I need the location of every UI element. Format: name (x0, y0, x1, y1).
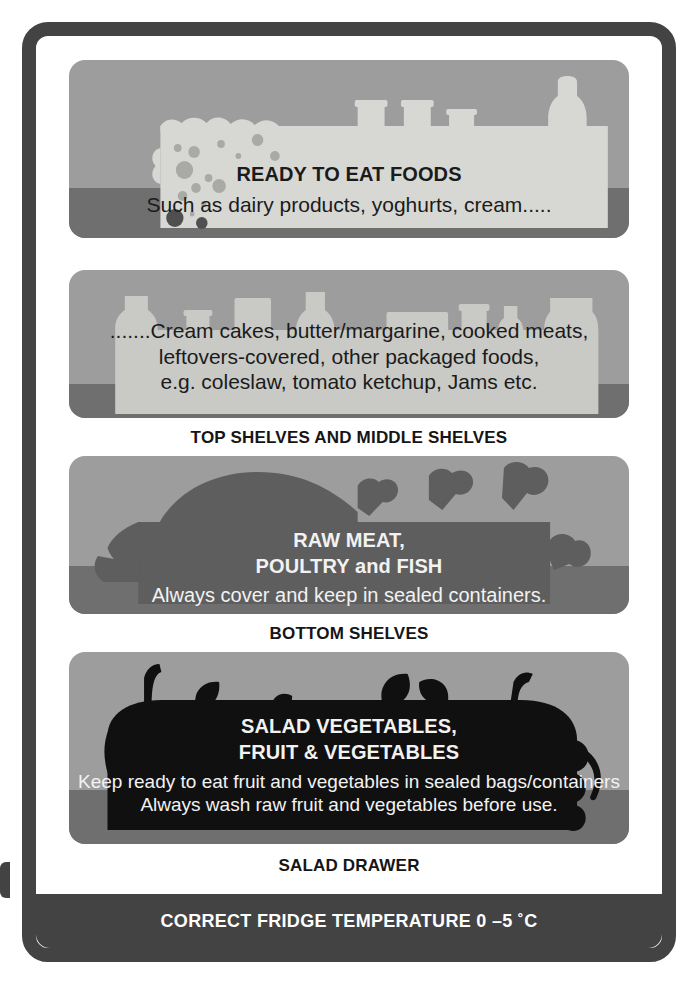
shelf-title-salad-line-1: SALAD VEGETABLES, (69, 714, 629, 738)
shelf-subtitle-ready-to-eat: Such as dairy products, yoghurts, cream.… (69, 192, 629, 218)
shelf-title-raw-meat-line-1: RAW MEAT, (69, 528, 629, 552)
shelf-line-2: leftovers-covered, other packaged foods, (69, 344, 629, 370)
shelf-panel-salad-drawer[interactable]: SALAD VEGETABLES, FRUIT & VEGETABLES Kee… (69, 652, 629, 844)
panel-text-raw-meat: RAW MEAT, POULTRY and FISH Always cover … (69, 528, 629, 607)
shelf-title-ready-to-eat: READY TO EAT FOODS (69, 162, 629, 186)
shelf-line-3: e.g. coleslaw, tomato ketchup, Jams etc. (69, 369, 629, 395)
shelf-subtitle-salad-line-1: Keep ready to eat fruit and vegetables i… (69, 770, 629, 793)
caption-salad-drawer: SALAD DRAWER (50, 856, 648, 876)
panel-text-salad-drawer: SALAD VEGETABLES, FRUIT & VEGETABLES Kee… (69, 714, 629, 816)
shelf-panel-ready-to-eat[interactable]: READY TO EAT FOODS Such as dairy product… (69, 60, 629, 238)
shelf-line-1: .......Cream cakes, butter/margarine, co… (69, 318, 629, 344)
fridge-interior: READY TO EAT FOODS Such as dairy product… (50, 50, 648, 934)
shelf-subtitle-salad-line-2: Always wash raw fruit and vegetables bef… (69, 793, 629, 816)
shelf-panel-raw-meat[interactable]: RAW MEAT, POULTRY and FISH Always cover … (69, 456, 629, 614)
caption-top-middle-shelves: TOP SHELVES AND MIDDLE SHELVES (50, 428, 648, 448)
shelf-panel-top-middle[interactable]: .......Cream cakes, butter/margarine, co… (69, 270, 629, 418)
panel-text-ready-to-eat: READY TO EAT FOODS Such as dairy product… (69, 162, 629, 218)
edge-print-artifact (0, 862, 10, 898)
shelf-title-salad-line-2: FRUIT & VEGETABLES (69, 740, 629, 764)
shelf-title-raw-meat-line-2: POULTRY and FISH (69, 554, 629, 578)
temperature-text: CORRECT FRIDGE TEMPERATURE 0 –5 ˚C (161, 911, 538, 932)
caption-bottom-shelves: BOTTOM SHELVES (50, 624, 648, 644)
panel-text-top-middle: .......Cream cakes, butter/margarine, co… (69, 318, 629, 395)
fridge-frame: READY TO EAT FOODS Such as dairy product… (22, 22, 676, 962)
temperature-banner: CORRECT FRIDGE TEMPERATURE 0 –5 ˚C (36, 894, 662, 948)
shelf-subtitle-raw-meat: Always cover and keep in sealed containe… (69, 583, 629, 607)
